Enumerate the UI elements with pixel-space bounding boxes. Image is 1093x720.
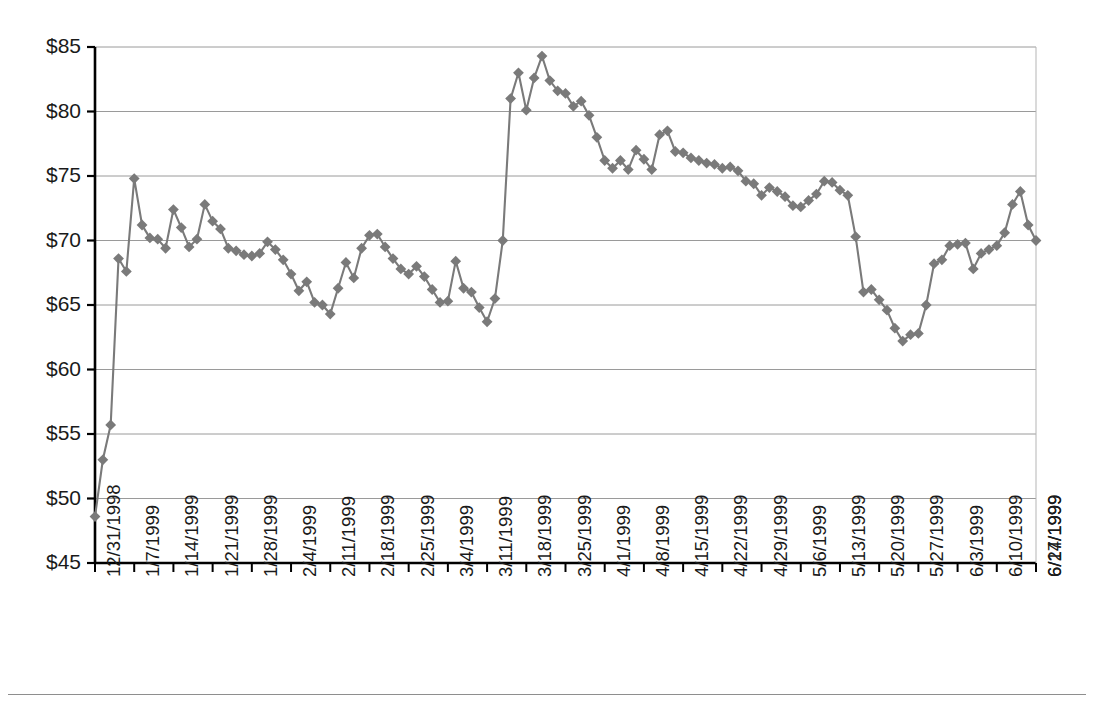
price-data-marker [176,222,187,233]
price-data-marker [1007,199,1018,210]
y-axis-tick-label: $55 [25,421,81,445]
x-axis-tick-label: 5/6/1999 [809,505,831,577]
x-axis-tick-label: 1/28/1999 [260,495,282,577]
price-data-marker [341,257,352,268]
price-data-marker [921,300,932,311]
price-data-marker [913,328,924,339]
price-data-marker [348,273,359,284]
x-axis-tick-label: 3/4/1999 [456,505,478,577]
axis-tick-group [87,47,1036,572]
y-axis-tick-label: $50 [25,486,81,510]
price-data-marker [129,173,140,184]
x-axis-tick-label: 3/18/1999 [534,495,556,577]
price-data-marker [505,93,516,104]
price-data-marker [568,101,579,112]
price-data-marker [1023,220,1034,231]
x-axis-tick-label: 3/11/1999 [495,496,517,577]
price-data-marker [576,96,587,107]
x-axis-tick-label: 6/24/1999 [1044,495,1066,577]
y-axis-tick-label: $80 [25,99,81,123]
y-axis-tick-label: $65 [25,292,81,316]
price-data-marker [372,229,383,240]
x-axis-tick-label: 4/22/1999 [730,495,752,577]
gridline-group [95,47,1036,499]
price-data-marker [105,420,116,431]
price-data-marker [427,284,438,295]
y-axis-tick-label: $45 [25,550,81,574]
price-data-marker [513,67,524,78]
price-data-marker [889,323,900,334]
price-data-marker [482,316,493,327]
price-data-marker [960,238,971,249]
price-data-marker [490,293,501,304]
x-axis-tick-label: 4/8/1999 [652,505,674,577]
y-axis-tick-label: $85 [25,34,81,58]
y-axis-tick-label: $70 [25,228,81,252]
x-axis-tick-label: 5/27/1999 [926,495,948,577]
x-axis-tick-label: 12/31/1998 [103,484,125,577]
price-data-marker [999,227,1010,238]
price-marker-group [90,51,1042,522]
y-axis-tick-label: $75 [25,163,81,187]
price-data-marker [521,105,532,116]
price-data-marker [137,220,148,231]
price-data-marker [356,243,367,254]
price-data-marker [537,51,548,62]
x-axis-tick-label: 6/3/1999 [966,505,988,577]
x-axis-tick-label: 4/1/1999 [613,505,635,577]
price-data-marker [529,73,540,84]
chart-canvas [0,0,1093,720]
x-axis-tick-label: 4/15/1999 [691,495,713,577]
price-data-marker [842,190,853,201]
price-data-marker [497,235,508,246]
y-axis-tick-label: $60 [25,357,81,381]
x-axis-tick-label: 3/25/1999 [574,495,596,577]
x-axis-tick-label: 6/10/1999 [1005,495,1027,577]
x-axis-tick-label: 5/13/1999 [848,495,870,577]
x-axis-tick-label: 1/7/1999 [142,505,164,577]
x-axis-tick-label: 2/11/1999 [338,496,360,577]
price-data-marker [1031,235,1042,246]
price-data-marker [168,204,179,215]
price-data-marker [333,283,344,294]
price-data-marker [90,511,101,522]
x-axis-tick-label: 2/4/1999 [299,505,321,577]
price-data-marker [678,147,689,158]
x-axis-tick-label: 1/14/1999 [181,495,203,577]
x-axis-tick-label: 5/20/1999 [887,495,909,577]
x-axis-tick-label: 1/21/1999 [221,495,243,577]
price-data-marker [591,132,602,143]
footer-divider [8,694,1086,695]
price-line [95,56,1036,517]
x-axis-tick-label: 2/25/1999 [417,495,439,577]
stock-price-line-chart: $85$80$75$70$65$60$55$50$45 12/31/19981/… [0,0,1093,720]
price-data-marker [474,302,485,313]
price-data-marker [968,263,979,274]
price-data-marker [113,253,124,264]
x-axis-tick-label: 2/18/1999 [377,495,399,577]
price-data-marker [286,269,297,280]
price-data-marker [1015,186,1026,197]
price-data-marker [199,199,210,210]
price-data-marker [121,266,132,277]
x-axis-tick-label: 4/29/1999 [770,495,792,577]
price-data-marker [97,454,108,465]
price-data-marker [450,256,461,267]
